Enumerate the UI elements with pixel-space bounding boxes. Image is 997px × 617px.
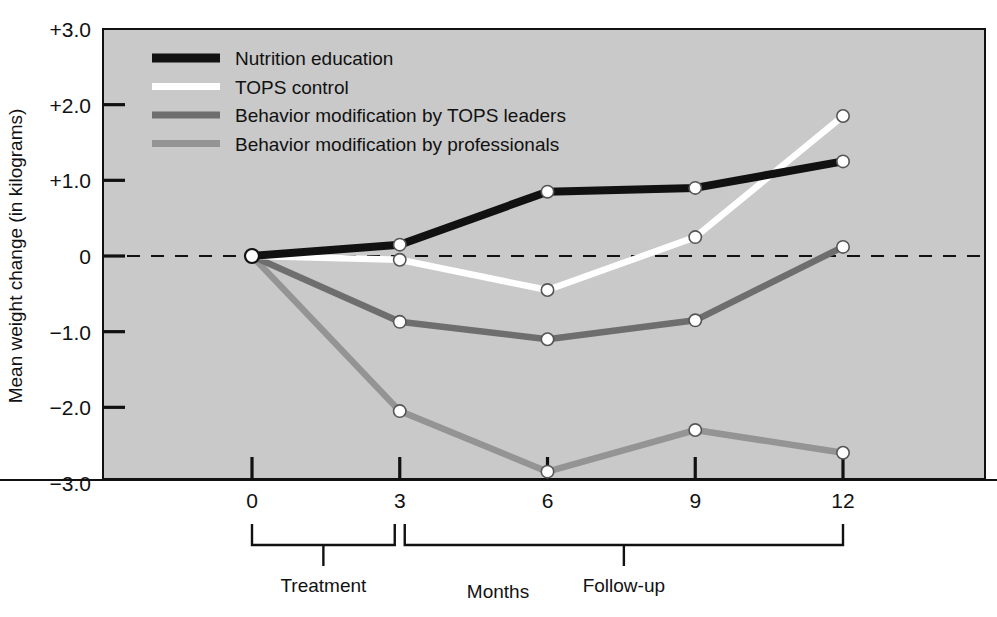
phase-brackets: TreatmentFollow-up bbox=[252, 524, 843, 596]
x-tick-label: 6 bbox=[542, 489, 554, 512]
data-point-marker bbox=[689, 231, 701, 243]
data-point-marker bbox=[837, 110, 849, 122]
y-tick-label: +1.0 bbox=[50, 169, 91, 192]
phase-bracket-label: Treatment bbox=[280, 575, 367, 596]
data-point-marker bbox=[689, 182, 701, 194]
x-tick-label: 0 bbox=[246, 489, 258, 512]
phase-bracket bbox=[405, 524, 843, 545]
legend-label: Behavior modification by professionals bbox=[235, 134, 559, 155]
y-axis-title: Mean weight change (in kilograms) bbox=[5, 109, 26, 404]
data-point-marker bbox=[394, 254, 406, 266]
phase-bracket bbox=[252, 524, 395, 545]
data-point-marker bbox=[394, 316, 406, 328]
legend-label: TOPS control bbox=[235, 77, 349, 98]
data-point-marker bbox=[689, 424, 701, 436]
data-point-marker bbox=[689, 314, 701, 326]
data-point-marker bbox=[394, 405, 406, 417]
phase-bracket-label: Follow-up bbox=[583, 575, 665, 596]
chart-figure: +3.0+2.0+1.00−1.0−2.0−3.0 Mean weight ch… bbox=[0, 0, 997, 617]
legend-label: Behavior modification by TOPS leaders bbox=[235, 105, 566, 126]
x-tick-label: 3 bbox=[394, 489, 406, 512]
data-point-marker bbox=[541, 465, 553, 477]
data-point-marker bbox=[245, 249, 259, 263]
y-axis-tick-labels: +3.0+2.0+1.00−1.0−2.0−3.0 bbox=[50, 18, 91, 495]
data-point-marker bbox=[394, 238, 406, 250]
y-tick-label: −3.0 bbox=[50, 472, 91, 495]
data-point-marker bbox=[541, 333, 553, 345]
x-axis-title: Months bbox=[467, 581, 529, 602]
y-tick-label: +3.0 bbox=[50, 18, 91, 41]
legend-label: Nutrition education bbox=[235, 48, 393, 69]
data-point-marker bbox=[541, 284, 553, 296]
data-point-marker bbox=[837, 155, 849, 167]
x-tick-label: 9 bbox=[689, 489, 701, 512]
y-tick-label: −1.0 bbox=[50, 321, 91, 344]
y-tick-label: 0 bbox=[79, 245, 91, 268]
y-tick-label: −2.0 bbox=[50, 396, 91, 419]
x-tick-label: 12 bbox=[831, 489, 854, 512]
x-axis-tick-labels: 036912 bbox=[246, 489, 855, 512]
line-chart-svg: +3.0+2.0+1.00−1.0−2.0−3.0 Mean weight ch… bbox=[0, 0, 997, 617]
data-point-marker bbox=[541, 185, 553, 197]
data-point-marker bbox=[837, 447, 849, 459]
data-point-marker bbox=[837, 241, 849, 253]
y-tick-label: +2.0 bbox=[50, 94, 91, 117]
